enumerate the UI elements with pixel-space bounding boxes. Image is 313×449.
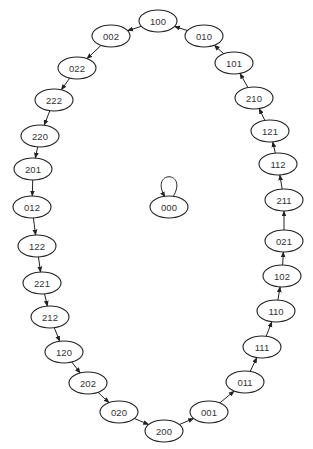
node-label: 121 (262, 126, 278, 137)
node-label: 202 (80, 378, 96, 389)
edge-100-to-002 (128, 26, 142, 30)
node-label: 210 (246, 93, 262, 104)
edge-022-to-222 (61, 78, 69, 90)
node-label: 111 (255, 342, 269, 353)
edge-111-to-110 (266, 322, 272, 337)
node-label: 101 (226, 58, 242, 69)
edge-010-to-100 (175, 26, 188, 30)
node-label: 201 (25, 164, 41, 175)
node-label: 000 (161, 202, 177, 213)
state-node-121: 121 (251, 120, 289, 142)
edge-222-to-220 (44, 111, 50, 126)
edge-221-to-212 (45, 294, 48, 306)
edge-001-to-011 (220, 391, 234, 403)
state-node-020: 020 (100, 401, 138, 423)
node-label: 021 (276, 236, 292, 247)
edge-110-to-102 (278, 287, 280, 300)
edge-122-to-221 (38, 257, 40, 272)
state-node-110: 110 (257, 300, 295, 322)
edge-002-to-022 (87, 45, 101, 58)
edge-212-to-120 (54, 328, 59, 342)
edge-220-to-201 (35, 147, 37, 158)
node-label: 212 (42, 312, 58, 323)
edge-121-to-210 (259, 109, 265, 121)
node-label: 221 (34, 278, 50, 289)
state-node-120: 120 (45, 341, 83, 363)
node-label: 010 (196, 31, 212, 42)
state-node-122: 122 (18, 235, 56, 257)
node-label: 102 (274, 271, 290, 282)
edge-102-to-021 (283, 252, 284, 265)
node-label: 002 (103, 31, 119, 42)
state-node-100: 100 (139, 10, 177, 32)
edge-120-to-202 (72, 362, 80, 373)
state-node-012: 012 (13, 196, 51, 218)
edge-020-to-200 (134, 418, 148, 424)
state-node-022: 022 (58, 57, 96, 79)
state-diagram: 1000101012101211122110211021101110110012… (0, 0, 313, 449)
edge-200-to-001 (179, 418, 193, 424)
node-label: 112 (270, 159, 285, 170)
node-label: 022 (69, 63, 85, 74)
node-label: 220 (32, 131, 48, 142)
node-label: 001 (201, 407, 217, 418)
state-node-200: 200 (145, 420, 183, 442)
state-node-221: 221 (23, 272, 61, 294)
nodes-layer: 1000101012101211122110211021101110110012… (13, 10, 303, 442)
node-label: 011 (237, 377, 252, 388)
edge-210-to-101 (240, 73, 248, 87)
state-node-112: 112 (259, 153, 297, 175)
edge-202-to-020 (98, 392, 109, 402)
edge-101-to-010 (214, 45, 223, 53)
state-node-222: 222 (35, 89, 73, 111)
state-node-111: 111 (243, 336, 281, 358)
node-label: 020 (111, 407, 127, 418)
state-node-220: 220 (21, 125, 59, 147)
state-node-211: 211 (265, 189, 303, 211)
state-node-210: 210 (235, 87, 273, 109)
state-node-002: 002 (92, 25, 130, 47)
state-node-202: 202 (69, 372, 107, 394)
state-node-000: 000 (150, 196, 188, 218)
state-node-021: 021 (265, 230, 303, 252)
state-node-101: 101 (215, 52, 253, 74)
state-node-001: 001 (190, 401, 228, 423)
edge-011-to-111 (250, 358, 257, 372)
node-label: 120 (56, 347, 72, 358)
node-label: 122 (29, 241, 45, 252)
node-label: 110 (268, 306, 283, 317)
node-label: 100 (150, 16, 166, 27)
node-label: 222 (46, 95, 62, 106)
edge-211-to-112 (280, 175, 282, 189)
node-label: 012 (24, 202, 40, 213)
edge-112-to-121 (273, 142, 276, 153)
edge-012-to-122 (33, 218, 35, 235)
state-node-201: 201 (14, 158, 52, 180)
state-node-212: 212 (31, 306, 69, 328)
state-node-102: 102 (263, 265, 301, 287)
edges-layer (32, 26, 284, 424)
state-node-010: 010 (185, 25, 223, 47)
self-loop-edge-000 (161, 177, 177, 197)
node-label: 211 (276, 195, 291, 206)
node-label: 200 (156, 426, 172, 437)
state-node-011: 011 (226, 371, 264, 393)
